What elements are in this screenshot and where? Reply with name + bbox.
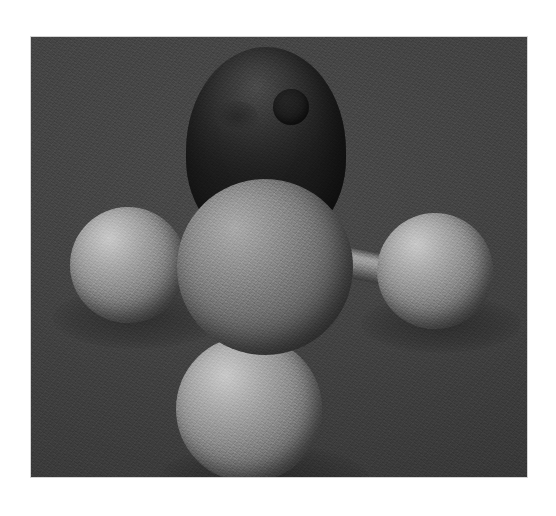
molecule-render-image — [31, 37, 527, 477]
page-root — [0, 0, 556, 516]
molecule-scene — [31, 37, 527, 477]
atom-center — [177, 179, 353, 355]
dark-spot-icon — [273, 89, 309, 125]
atom-bottom — [176, 336, 322, 477]
atom-left — [70, 207, 186, 323]
atom-right — [377, 213, 493, 329]
atom-dark-smudge — [214, 101, 258, 133]
